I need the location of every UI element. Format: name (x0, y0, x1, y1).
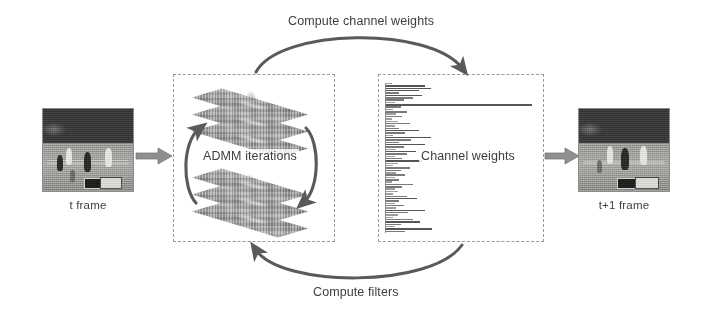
connector-overlay (0, 0, 704, 312)
input-to-admm-arrow (136, 148, 172, 164)
diagram-canvas: t frame ADMM iterations Channel weights (0, 0, 704, 312)
admm-cycle-arrow-left (186, 129, 199, 203)
compute-channel-weights-arc (256, 38, 462, 72)
compute-filters-arc (256, 245, 462, 278)
compute-channel-weights-label: Compute channel weights (288, 14, 434, 28)
channel-to-output-arrow (545, 148, 579, 164)
compute-filters-label: Compute filters (313, 285, 399, 299)
admm-cycle-arrow-right (304, 128, 316, 202)
